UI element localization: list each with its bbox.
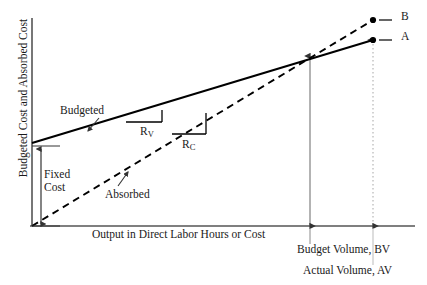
point-b-dot: [370, 17, 376, 23]
actual-volume-label: Actual Volume, AV: [303, 264, 392, 276]
budgeted-cost-line: [32, 40, 373, 143]
variable-rate-base: R: [140, 125, 148, 137]
x-axis-label: Output in Direct Labor Hours or Cost: [92, 228, 265, 240]
capacity-rate-subscript: C: [190, 142, 196, 152]
absorbed-cost-line: [32, 20, 373, 226]
point-a-label: A: [401, 30, 409, 42]
budgeted-line-label: Budgeted: [60, 104, 104, 116]
point-b-label: B: [401, 10, 409, 22]
budget-volume-label: Budget Volume, BV: [297, 243, 390, 255]
absorbed-line-label: Absorbed: [105, 188, 150, 200]
y-axis-label: Budgeted Cost and Absorbed Cost: [17, 13, 29, 183]
point-a-dot: [370, 37, 376, 43]
capacity-rate-base: R: [182, 138, 190, 150]
variable-rate-subscript: V: [148, 129, 154, 139]
chart-figure: Budgeted Cost and Absorbed Cost Output i…: [0, 0, 427, 285]
capacity-rate-label: RC: [182, 138, 195, 152]
variable-rate-label: RV: [140, 125, 154, 139]
fixed-cost-label-line1: Fixed: [44, 168, 70, 181]
fixed-cost-label-line2: Cost: [44, 181, 70, 194]
fixed-cost-label: Fixed Cost: [44, 168, 70, 194]
